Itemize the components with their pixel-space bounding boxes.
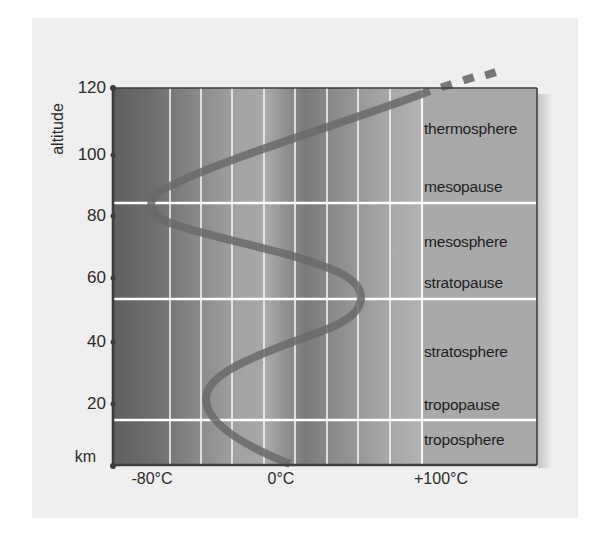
frame-shadow [538, 94, 552, 468]
label-mesopause: mesopause [424, 178, 502, 196]
label-mesosphere: mesosphere [424, 233, 507, 251]
y-tick-40: 40 [56, 333, 106, 351]
y-unit-km: km [46, 448, 96, 466]
y-tick-80: 80 [56, 207, 106, 225]
label-stratopause: stratopause [424, 274, 503, 292]
y-tick-100: 100 [56, 146, 106, 164]
label-troposphere: troposphere [424, 431, 505, 449]
label-tropopause: tropopause [424, 396, 500, 414]
atmosphere-temperature-diagram: altitude 120 100 80 60 40 20 km -80°C 0°… [0, 0, 594, 550]
label-thermosphere: thermosphere [424, 120, 517, 138]
y-tick-60: 60 [56, 269, 106, 287]
y-tick-120: 120 [56, 79, 106, 97]
x-tick-plus-100: +100°C [396, 470, 486, 488]
x-tick-0: 0°C [236, 470, 326, 488]
label-stratosphere: stratosphere [424, 343, 508, 361]
x-tick-minus-80: -80°C [107, 470, 197, 488]
y-tick-20: 20 [56, 395, 106, 413]
